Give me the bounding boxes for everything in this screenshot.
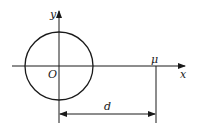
diagram-svg: [0, 0, 197, 131]
point-mu-label: μ: [151, 54, 158, 65]
distance-label: d: [104, 101, 111, 112]
origin-label: O: [48, 69, 57, 80]
x-axis-label: x: [180, 69, 186, 80]
y-axis-label: y: [50, 9, 56, 20]
diagram-canvas: y x O μ d: [0, 0, 197, 131]
